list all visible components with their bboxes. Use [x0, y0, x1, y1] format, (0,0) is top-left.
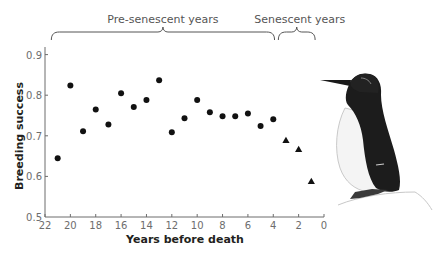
- data-point-circle: [258, 123, 264, 129]
- annotation-pre-senescent: Pre-senescent years: [107, 13, 219, 26]
- brace-senescent: [278, 27, 315, 40]
- data-point-circle: [67, 82, 73, 88]
- x-tick-label: 10: [191, 220, 204, 231]
- data-point-circle: [182, 115, 188, 121]
- data-point-circle: [169, 129, 175, 135]
- data-point-circle: [80, 128, 86, 134]
- y-tick-label: 0.5: [26, 212, 42, 223]
- x-tick-label: 16: [115, 220, 128, 231]
- x-axis-title: Years before death: [125, 233, 244, 246]
- data-point-circle: [194, 97, 200, 103]
- x-tick-label: 8: [219, 220, 225, 231]
- data-point-circle: [55, 155, 61, 161]
- data-point-circle: [118, 90, 124, 96]
- data-marks: [55, 77, 315, 184]
- axes: [45, 47, 324, 217]
- data-point-circle: [232, 113, 238, 119]
- y-axis-title: Breeding success: [13, 82, 26, 190]
- chart: Pre-senescent years Senescent years 2220…: [0, 0, 438, 259]
- data-point-circle: [131, 104, 137, 110]
- x-tick-label: 14: [140, 220, 153, 231]
- data-point-circle: [270, 116, 276, 122]
- data-point-circle: [156, 77, 162, 83]
- y-tick-label: 0.7: [26, 131, 42, 142]
- data-point-triangle: [295, 146, 302, 152]
- x-tick-label: 18: [89, 220, 102, 231]
- x-tick-label: 6: [245, 220, 251, 231]
- x-tick-label: 20: [64, 220, 77, 231]
- y-tick-label: 0.6: [26, 171, 42, 182]
- data-point-circle: [220, 113, 226, 119]
- x-tick-label: 2: [295, 220, 301, 231]
- data-point-triangle: [308, 178, 315, 184]
- data-point-circle: [245, 110, 251, 116]
- rock-outline: [338, 192, 432, 210]
- data-point-circle: [93, 106, 99, 112]
- x-tick-label: 12: [165, 220, 178, 231]
- data-point-circle: [207, 109, 213, 115]
- annotation-braces: [51, 27, 315, 40]
- y-tick-label: 0.9: [26, 50, 42, 61]
- x-tick-label: 4: [270, 220, 276, 231]
- annotation-senescent: Senescent years: [254, 13, 345, 26]
- murre-bird-illustration: [320, 73, 432, 210]
- x-tick-label: 0: [321, 220, 327, 231]
- y-tick-label: 0.8: [26, 90, 42, 101]
- brace-pre-senescent: [51, 27, 274, 40]
- data-point-circle: [105, 121, 111, 127]
- data-point-circle: [143, 97, 149, 103]
- bird-beak: [320, 80, 351, 86]
- data-point-triangle: [282, 137, 289, 143]
